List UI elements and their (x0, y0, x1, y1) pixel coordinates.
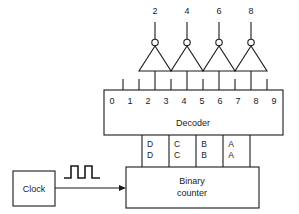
inverter-bubble-2-icon (152, 39, 158, 45)
decoder-output-label-5: 5 (199, 96, 204, 106)
bus-label-B-bottom: B (201, 150, 207, 160)
clock-arrowhead-icon (119, 185, 126, 191)
binary-counter-label-line1: Binary (179, 176, 205, 186)
decoder-output-label-6: 6 (217, 96, 222, 106)
bus-label-C-bottom: C (174, 150, 180, 160)
decoder-output-label-8: 8 (253, 96, 258, 106)
bus-label-C-top: C (174, 139, 180, 149)
inverter-bubble-8-icon (248, 39, 254, 45)
decoder-output-label-1: 1 (127, 96, 132, 106)
inverter-bubble-4-icon (184, 39, 190, 45)
bus-label-A-top: A (228, 139, 234, 149)
inverter-triangle-6-icon (203, 46, 235, 71)
inverter-bubble-6-icon (216, 39, 222, 45)
bus-label-A-bottom: A (228, 150, 234, 160)
decoder-counter-schematic: 0 1 2 3 4 5 6 7 8 9 Decoder D D C C B (0, 0, 299, 214)
inverter-bubbles (152, 39, 254, 45)
bus-signal-labels: D D C C B B A A (147, 139, 234, 160)
decoder-output-label-3: 3 (163, 96, 168, 106)
bus-label-D-bottom: D (147, 150, 153, 160)
inverter-triangles (139, 46, 267, 71)
decoder-output-label-9: 9 (271, 96, 276, 106)
decoder-output-label-4: 4 (181, 96, 186, 106)
decoder-output-label-2: 2 (145, 96, 150, 106)
bus-label-B-top: B (201, 139, 207, 149)
inverter-triangle-2-icon (139, 46, 171, 71)
circuit-diagram-canvas: 0 1 2 3 4 5 6 7 8 9 Decoder D D C C B (0, 0, 299, 214)
decoder-output-label-7: 7 (235, 96, 240, 106)
decoder-output-label-0: 0 (109, 96, 114, 106)
decoder-output-stubs (123, 79, 267, 90)
binary-counter-label-line2: counter (177, 188, 207, 198)
clock-label: Clock (23, 184, 46, 194)
inverter-triangle-4-icon (171, 46, 203, 71)
clock-waveform-icon (64, 166, 100, 178)
inverter-output-wires (155, 22, 251, 39)
bus-label-D-top: D (147, 139, 153, 149)
inverter-triangle-8-icon (235, 46, 267, 71)
decoder-label: Decoder (176, 118, 210, 128)
